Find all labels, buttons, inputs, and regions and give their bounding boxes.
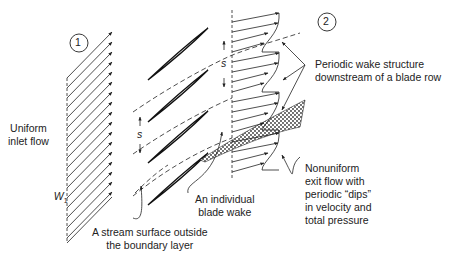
blade-wake-label: An individual blade wake [195,193,255,219]
inlet-arrow [67,162,112,208]
wake-callout [188,132,222,193]
inlet-arrow [67,122,112,168]
inlet-arrow [67,72,112,118]
inlet-flow-profile [67,32,112,243]
exit-arrow [232,63,278,72]
inlet-arrow [67,92,112,138]
exit-arrow [232,23,278,32]
inlet-arrow [67,102,112,148]
velocity-subscript: 1 [64,197,68,204]
inlet-arrow [67,52,112,98]
inlet-arrow [67,62,112,108]
exit-flow-profile [232,13,279,172]
exit-arrow [232,83,264,92]
inlet-arrow [67,32,112,78]
pitch-markers [140,41,224,153]
inlet-velocity-label: W1 [48,177,68,207]
exit-arrow [232,93,279,102]
periodic-callout-2 [283,65,305,80]
stream-surface-label: A stream surface outside the boundary la… [92,226,208,252]
exit-arrow [232,73,268,82]
periodic-callout-1 [282,42,305,65]
exit-arrow [232,153,268,162]
exit-arrow [232,33,268,42]
exit-velocity-profile [262,13,279,170]
exit-arrow [232,163,264,172]
inlet-arrow [67,172,112,218]
pitch-label-left: s [137,128,142,141]
nonuniform-callout [282,155,300,174]
exit-arrow [232,113,268,122]
exit-arrow [232,53,279,62]
inlet-arrow [67,182,112,228]
exit-arrow [232,103,278,112]
station-1-label: 1 [75,36,81,49]
blade-row-diagram [0,0,453,265]
inlet-arrow [67,142,112,188]
velocity-symbol: W [54,190,64,202]
inlet-arrow [67,152,112,198]
exit-arrow [232,43,264,52]
inlet-arrow [67,132,112,178]
inlet-arrow [67,82,112,128]
blade-wake-region [200,100,305,162]
nonuniform-exit-label: Nonuniform exit flow with periodic “dips… [305,162,372,227]
inlet-arrow [67,112,112,158]
station-2-label: 2 [323,15,329,28]
exit-arrow [232,13,279,22]
periodic-wake-label: Periodic wake structure downstream of a … [315,58,441,84]
pitch-label-right: s [221,57,226,70]
inlet-arrow [67,42,112,88]
inlet-flow-label: Uniform inlet flow [8,122,49,148]
